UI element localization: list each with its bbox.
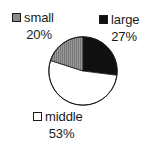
- legend-entry-middle: middle 53%: [33, 110, 88, 141]
- legend-percent-middle: 53%: [35, 126, 88, 141]
- legend-label-large: large: [111, 13, 139, 26]
- black-square-marker-icon: [99, 15, 108, 24]
- legend-percent-large: 27%: [101, 29, 147, 44]
- pie-svg: [48, 36, 118, 106]
- legend-row-middle: middle: [33, 110, 88, 123]
- pie-chart-figure: small 20% large 27% middle 53%: [0, 0, 154, 152]
- legend-label-middle: middle: [45, 110, 83, 123]
- gray-square-marker-icon: [12, 13, 21, 22]
- legend-row-small: small: [12, 11, 63, 24]
- legend-row-large: large: [99, 13, 147, 26]
- legend-entry-small: small 20%: [12, 11, 63, 42]
- legend-label-small: small: [24, 11, 54, 24]
- white-square-marker-icon: [33, 112, 42, 121]
- legend-entry-large: large 27%: [99, 13, 147, 44]
- legend-percent-small: 20%: [15, 27, 63, 42]
- pie-chart-graphic: [48, 36, 118, 106]
